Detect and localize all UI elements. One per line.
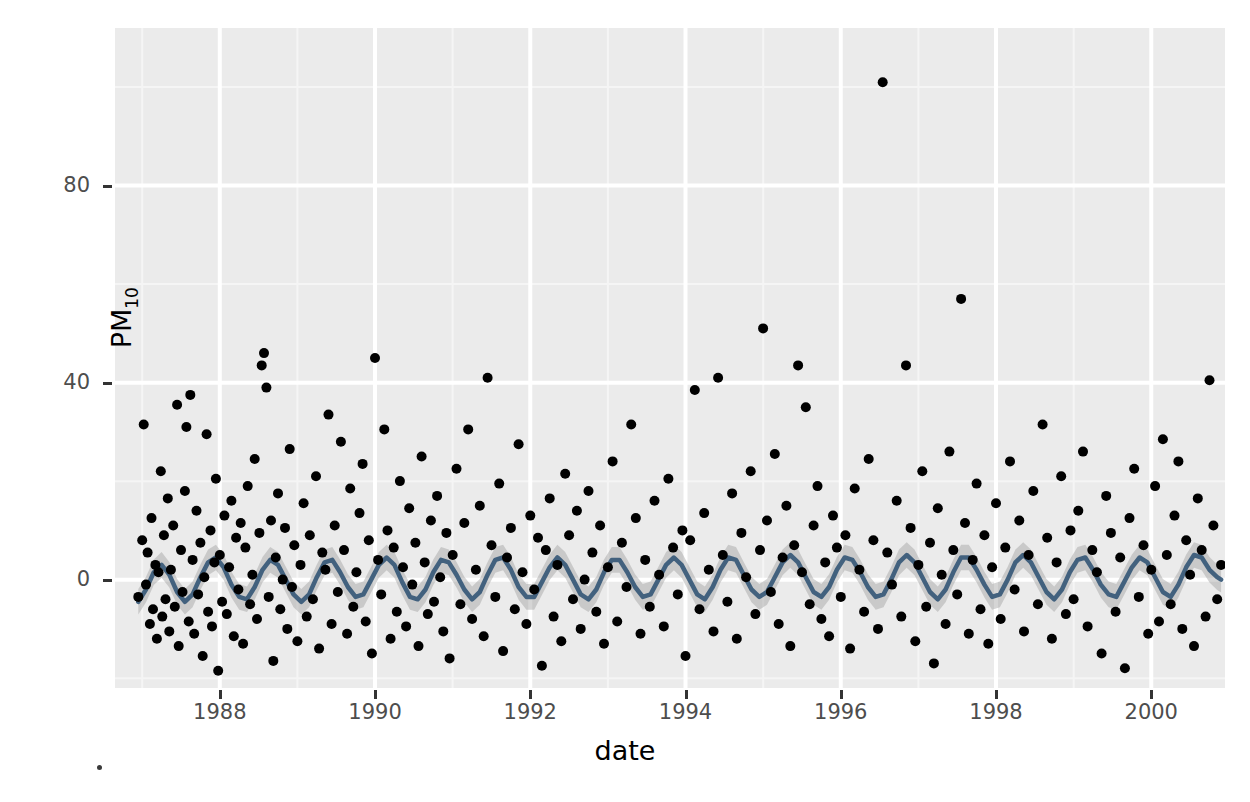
y-tick-mark	[103, 185, 112, 188]
x-tick-label: 1992	[480, 702, 580, 723]
x-tick-label: 1988	[170, 702, 270, 723]
y-axis-title: PM10	[106, 208, 141, 428]
x-tick-mark	[840, 690, 843, 699]
x-tick-label: 1990	[325, 702, 425, 723]
y-axis-title-subscript: 10	[122, 287, 142, 309]
plot-canvas	[115, 28, 1225, 688]
x-tick-mark	[1150, 690, 1153, 699]
x-tick-label: 2000	[1101, 702, 1201, 723]
y-tick-label: 0	[30, 569, 90, 590]
stray-mark	[97, 765, 102, 770]
y-tick-label: 80	[30, 175, 90, 196]
x-tick-mark	[685, 690, 688, 699]
x-tick-mark	[219, 690, 222, 699]
x-tick-label: 1994	[636, 702, 736, 723]
y-tick-label: 40	[30, 372, 90, 393]
plot-panel	[115, 28, 1225, 688]
y-tick-mark	[103, 579, 112, 582]
x-axis-title: date	[0, 735, 1250, 766]
chart-figure: 04080 1988199019921994199619982000 date …	[0, 0, 1250, 802]
x-tick-label: 1998	[946, 702, 1046, 723]
x-tick-mark	[995, 690, 998, 699]
y-axis-title-main: PM	[106, 309, 137, 349]
x-tick-label: 1996	[791, 702, 891, 723]
x-tick-mark	[529, 690, 532, 699]
x-tick-mark	[374, 690, 377, 699]
